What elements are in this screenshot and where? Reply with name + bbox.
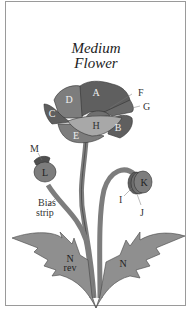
label-d: D bbox=[65, 94, 72, 105]
label-k: K bbox=[140, 177, 148, 188]
label-b: B bbox=[115, 122, 122, 133]
label-g: G bbox=[143, 101, 150, 112]
leaf-n-left bbox=[12, 232, 96, 308]
label-l: L bbox=[42, 167, 48, 178]
label-h: H bbox=[92, 120, 99, 131]
label-m: M bbox=[30, 143, 39, 154]
label-strip: strip bbox=[36, 207, 54, 218]
label-n-right: N bbox=[119, 258, 126, 269]
label-f: F bbox=[138, 87, 144, 98]
label-i: I bbox=[119, 194, 122, 205]
label-n-left-rev: rev bbox=[64, 262, 77, 273]
flower-diagram: A B C D E F G H I J K L M N rev N Bias s… bbox=[0, 0, 192, 315]
leaf-n-right bbox=[96, 232, 185, 308]
flower-head bbox=[44, 81, 133, 143]
label-j: J bbox=[140, 207, 144, 218]
label-c: C bbox=[49, 108, 56, 119]
label-a: A bbox=[92, 87, 100, 98]
label-e: E bbox=[73, 130, 79, 141]
